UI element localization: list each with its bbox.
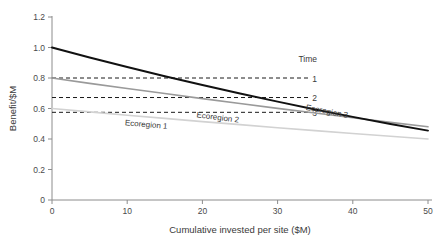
x-tick-label: 0 (50, 206, 55, 216)
legend-title-time: Time (298, 54, 317, 64)
x-axis-title: Cumulative invested per site ($M) (169, 224, 311, 235)
x-tick-label: 10 (122, 206, 132, 216)
threshold-label-time-1: 1 (312, 74, 317, 84)
y-tick-label: 1.2 (33, 12, 45, 22)
chart-plot-area: 00.20.40.60.81.01.201020304050Cumulative… (0, 0, 443, 244)
series-line-ecoregion-1 (52, 109, 428, 140)
x-tick-label: 40 (348, 206, 358, 216)
y-tick-label: 0.4 (33, 134, 45, 144)
x-tick-label: 50 (423, 206, 433, 216)
y-tick-label: 0.8 (33, 73, 45, 83)
series-label-ecoregion-1: Ecoregion 1 (125, 118, 169, 131)
y-tick-label: 0.6 (33, 104, 45, 114)
y-tick-label: 0 (40, 195, 45, 205)
y-tick-label: 1.0 (33, 43, 45, 53)
x-tick-label: 30 (273, 206, 283, 216)
x-tick-label: 20 (198, 206, 208, 216)
threshold-label-time-2: 2 (312, 93, 317, 103)
series-line-ecoregion-3 (52, 48, 428, 131)
y-axis-title: Benefit/$M (7, 86, 18, 131)
y-tick-label: 0.2 (33, 165, 45, 175)
chart-container: 00.20.40.60.81.01.201020304050Cumulative… (0, 0, 443, 244)
